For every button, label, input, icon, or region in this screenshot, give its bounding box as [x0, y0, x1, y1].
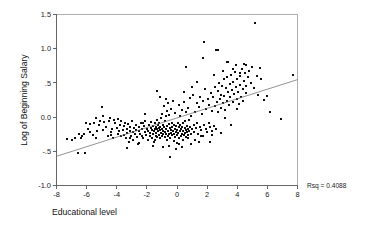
y-tick-label: 1.5: [41, 10, 51, 19]
data-point: [217, 111, 219, 113]
data-point: [125, 137, 127, 139]
data-point: [111, 128, 113, 130]
data-point: [126, 128, 128, 130]
data-point: [241, 68, 243, 70]
data-point: [136, 136, 138, 138]
data-point: [174, 128, 176, 130]
data-point: [206, 131, 208, 133]
y-tick-label: 1.0: [41, 44, 51, 53]
data-point: [156, 136, 158, 138]
data-point: [176, 129, 178, 131]
annotations: Rsq = 0.4088: [307, 182, 347, 190]
data-point: [198, 141, 200, 143]
data-point: [159, 129, 161, 131]
data-point: [132, 139, 134, 141]
data-point: [191, 128, 193, 130]
data-point: [205, 128, 207, 130]
rsq-annotation: Rsq = 0.4088: [307, 182, 347, 190]
data-point: [176, 142, 178, 144]
data-point: [99, 120, 101, 122]
data-point: [158, 134, 160, 136]
data-point: [263, 99, 265, 101]
data-point: [207, 98, 209, 100]
data-point: [161, 135, 163, 137]
data-point: [159, 137, 161, 139]
data-point: [176, 134, 178, 136]
data-point: [219, 98, 221, 100]
data-point: [162, 124, 164, 126]
data-point: [229, 96, 231, 98]
data-point: [156, 119, 158, 121]
data-point: [147, 130, 149, 132]
data-point: [218, 82, 220, 84]
data-point: [116, 127, 118, 129]
data-point: [117, 133, 119, 135]
data-point: [127, 123, 129, 125]
data-point: [221, 85, 223, 87]
y-tick-label: -1.0: [38, 181, 51, 190]
data-point: [172, 130, 174, 132]
data-point: [266, 95, 268, 97]
data-point: [171, 126, 173, 128]
data-point: [174, 136, 176, 138]
data-point: [260, 78, 262, 80]
data-point: [165, 98, 167, 100]
data-point: [250, 82, 252, 84]
data-point: [158, 127, 160, 129]
data-point: [170, 132, 172, 134]
y-tick-label: 0.0: [41, 113, 51, 122]
data-point: [74, 137, 76, 139]
data-point: [196, 102, 198, 104]
data-point: [129, 137, 131, 139]
data-point: [211, 110, 213, 112]
data-point: [208, 122, 210, 124]
data-point: [183, 134, 185, 136]
data-point: [195, 127, 197, 129]
data-point: [187, 128, 189, 130]
data-point: [181, 109, 183, 111]
data-point: [202, 100, 204, 102]
linear-regression-line: [57, 80, 298, 157]
data-point: [182, 139, 184, 141]
x-tick-label: -8: [53, 190, 60, 199]
data-point: [78, 133, 80, 135]
data-point: [165, 115, 167, 117]
data-point: [188, 119, 190, 121]
data-point: [144, 131, 146, 133]
data-point: [269, 111, 271, 113]
data-point: [217, 90, 219, 92]
x-axis-title: Educational level: [52, 207, 117, 217]
data-point: [113, 119, 115, 121]
data-point: [174, 112, 176, 114]
data-point: [178, 143, 180, 145]
y-tick-label: -.5: [42, 147, 51, 156]
data-point: [202, 57, 204, 59]
data-point: [180, 135, 182, 137]
data-point: [173, 140, 175, 142]
data-point: [190, 143, 192, 145]
data-point: [148, 124, 150, 126]
data-point: [186, 131, 188, 133]
data-point: [133, 127, 135, 129]
data-point: [110, 131, 112, 133]
data-point: [120, 120, 122, 122]
data-point: [109, 117, 111, 119]
data-point: [196, 81, 198, 83]
data-point: [239, 72, 241, 74]
data-point: [280, 118, 282, 120]
data-point: [171, 122, 173, 124]
data-point: [175, 148, 177, 150]
data-point: [247, 76, 249, 78]
data-point: [95, 137, 97, 139]
data-point: [166, 125, 168, 127]
data-point: [230, 124, 232, 126]
x-tick-label: 4: [235, 190, 239, 199]
data-point: [162, 130, 164, 132]
data-point: [228, 104, 230, 106]
data-point: [171, 134, 173, 136]
data-point: [175, 125, 177, 127]
x-tick-label: 0: [175, 190, 179, 199]
data-point: [184, 127, 186, 129]
data-point: [198, 106, 200, 108]
axis-ticks: [53, 15, 297, 189]
